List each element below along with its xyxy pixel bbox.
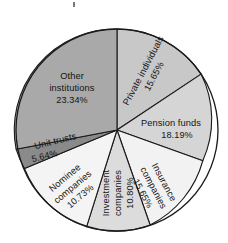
- label-pension-funds-line1: Pension funds: [141, 118, 201, 128]
- pie-chart-figure: Other institutions 23.34% Private indivi…: [0, 0, 228, 243]
- label-other-institutions-value: 23.34%: [56, 95, 87, 105]
- crop-artifact-mark: [73, 2, 75, 7]
- bottom-crop-edge: [0, 236, 228, 243]
- pie-chart-svg: Other institutions 23.34% Private indivi…: [0, 0, 228, 243]
- label-investment-companies-value: 10.80%: [125, 177, 135, 208]
- label-investment-companies-line1: Investment: [101, 169, 111, 216]
- label-investment-companies-line2: companies: [113, 170, 123, 216]
- label-other-institutions-line1: Other: [60, 71, 84, 81]
- label-other-institutions-line2: institutions: [49, 83, 94, 93]
- label-pension-funds-value: 18.19%: [161, 130, 192, 140]
